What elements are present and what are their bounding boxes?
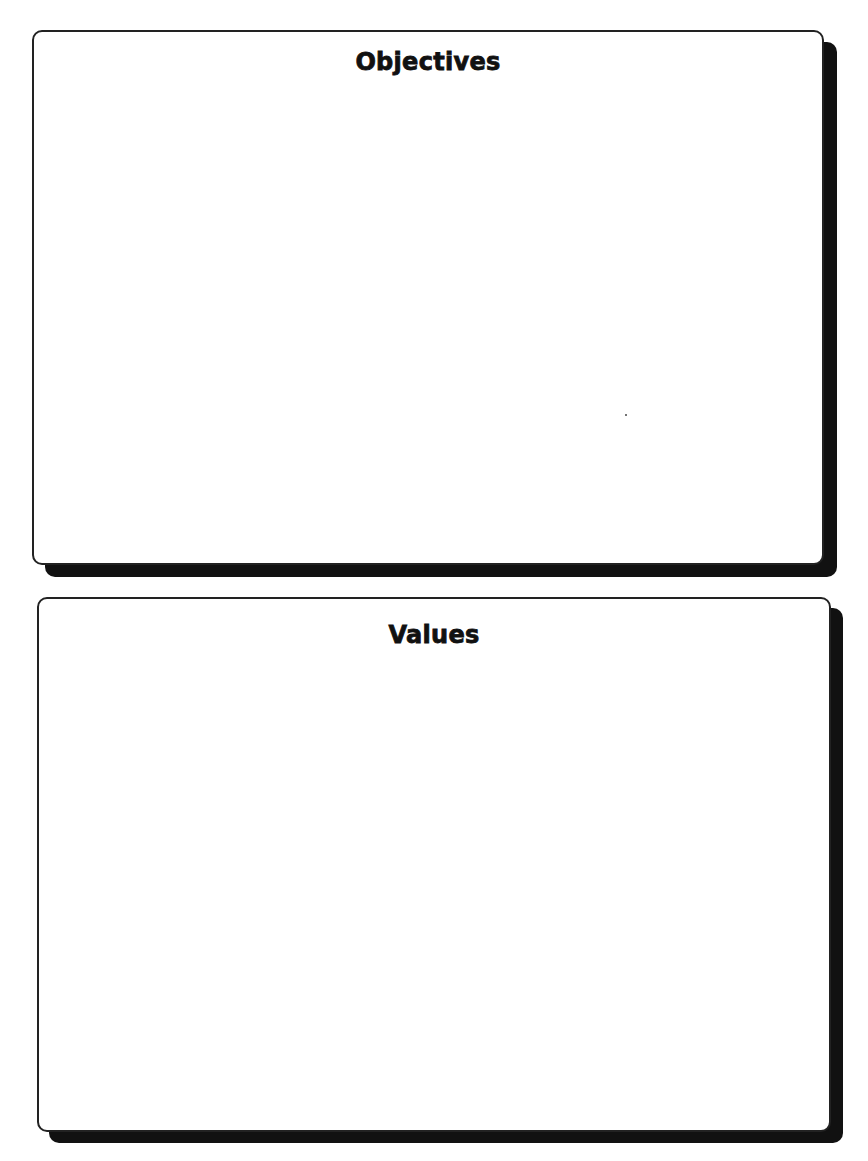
values-title: Values (39, 621, 829, 649)
scan-speck (625, 414, 627, 416)
objectives-section: Objectives (0, 0, 868, 580)
values-content-area[interactable] (55, 659, 813, 1114)
values-box: Values (37, 597, 831, 1132)
values-section: Values (0, 580, 868, 1161)
objectives-box: Objectives (32, 30, 824, 565)
objectives-content-area[interactable] (50, 92, 806, 547)
objectives-title: Objectives (34, 48, 822, 76)
